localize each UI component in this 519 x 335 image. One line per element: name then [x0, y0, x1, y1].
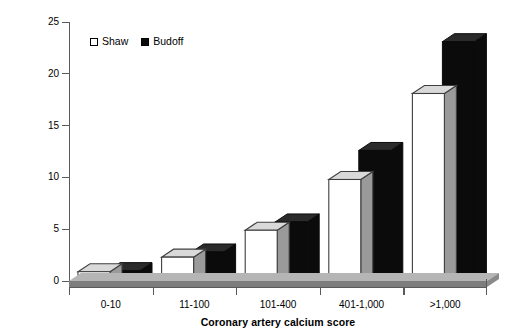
x-tick-4	[403, 288, 404, 295]
bars-svg	[0, 0, 519, 335]
x-tick-3	[320, 288, 321, 295]
x-tick-label-11-100: 11-100	[153, 299, 237, 310]
x-axis-right-edge	[486, 279, 487, 295]
bar-shaw-11-100	[162, 249, 206, 281]
x-tick-label-401-1,000: 401-1,000	[320, 299, 404, 310]
x-axis-line	[69, 287, 487, 288]
x-axis-title: Coronary artery calcium score	[69, 316, 487, 328]
x-tick-label->1,000: >1,000	[403, 299, 487, 310]
bar-shaw-401-1,000	[329, 171, 373, 281]
bar-shaw-101-400	[245, 222, 289, 281]
bar-shaw->1,000	[412, 85, 456, 281]
x-tick-1	[153, 288, 154, 295]
x-tick-label-0-10: 0-10	[69, 299, 153, 310]
x-tick-0	[69, 288, 70, 295]
x-tick-label-101-400: 101-400	[236, 299, 320, 310]
x-tick-2	[236, 288, 237, 295]
chart-figure: All-Cause mortality rate (%) 0510152025 …	[0, 0, 519, 335]
